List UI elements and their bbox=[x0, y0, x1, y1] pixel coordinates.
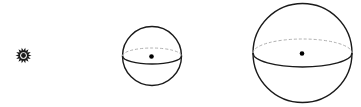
equator-back-dashed bbox=[253, 39, 352, 53]
medium-sphere bbox=[123, 27, 182, 86]
spheres-diagram bbox=[0, 0, 361, 107]
starburst-core bbox=[21, 53, 26, 58]
tiny-sphere-starburst-icon bbox=[16, 48, 32, 64]
large-sphere bbox=[253, 4, 352, 103]
center-point bbox=[300, 51, 305, 56]
diagram-canvas bbox=[0, 0, 361, 107]
center-point bbox=[149, 54, 154, 59]
